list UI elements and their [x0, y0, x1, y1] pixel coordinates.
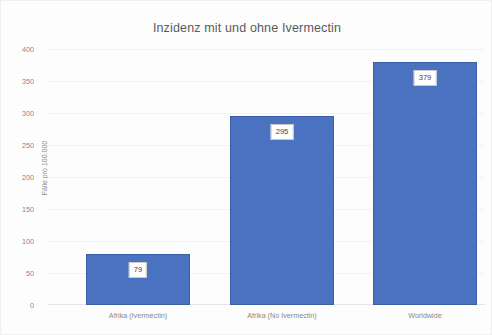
chart-figure: Inzidenz mit und ohne Ivermectin Fälle p… — [0, 0, 492, 335]
y-tick-150: 150 — [0, 205, 34, 214]
chart-title: Inzidenz mit und ohne Ivermectin — [1, 21, 492, 35]
y-axis-ticks: 400 350 300 250 200 150 100 50 0 — [48, 49, 485, 305]
x-tick-afrika-no-ivermectin: Afrika (No Ivermectin) — [247, 311, 317, 320]
y-tick-400: 400 — [0, 45, 34, 54]
y-tick-200: 200 — [0, 173, 34, 182]
y-tick-350: 350 — [0, 77, 34, 86]
y-tick-0: 0 — [0, 301, 34, 310]
y-tick-250: 250 — [0, 141, 34, 150]
y-axis-title: Fälle pro 100.000 — [41, 140, 48, 194]
x-tick-worldwide: Worldwide — [408, 311, 441, 320]
y-tick-100: 100 — [0, 237, 34, 246]
y-tick-300: 300 — [0, 109, 34, 118]
x-tick-afrika-ivermectin: Afrika (Ivermectin) — [109, 311, 167, 320]
y-tick-50: 50 — [0, 269, 34, 278]
